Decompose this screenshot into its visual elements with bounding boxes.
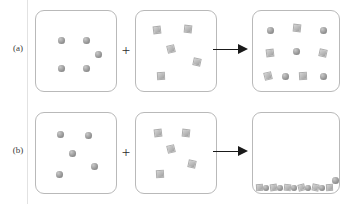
plus-operator-b: +: [118, 144, 134, 160]
panel-a-cubes-input: [135, 10, 217, 92]
sphere-particle: [263, 185, 269, 191]
sphere-particle: [319, 185, 325, 191]
sphere-particle: [83, 37, 90, 44]
sphere-particle: [57, 131, 64, 138]
sphere-particle: [305, 185, 311, 191]
figure-row-b: (b) +: [0, 102, 349, 204]
cube-particle: [326, 184, 333, 191]
sphere-particle: [277, 185, 283, 191]
panel-b-cubes-input: [135, 112, 217, 194]
arrow-b: [213, 145, 249, 159]
sphere-particle: [85, 132, 92, 139]
cube-particle: [153, 26, 162, 35]
sphere-particle: [291, 185, 297, 191]
arrow-head: [238, 146, 248, 156]
cube-particle: [182, 129, 191, 138]
figure-canvas: (a) + (b) +: [0, 0, 349, 204]
sphere-particle: [320, 73, 327, 80]
panel-b-settled-output: [252, 112, 340, 194]
cube-particle: [157, 72, 165, 80]
cube-particle: [156, 170, 164, 178]
cube-particle: [299, 72, 307, 80]
cube-particle: [166, 144, 176, 154]
sphere-particle: [69, 150, 76, 157]
settled-pile: [254, 180, 340, 192]
sphere-particle: [83, 65, 90, 72]
sphere-particle: [56, 171, 63, 178]
sphere-particle: [293, 48, 300, 55]
cube-particle: [187, 159, 196, 168]
plus-operator-a: +: [118, 42, 134, 58]
cube-particle: [263, 71, 273, 81]
cube-particle: [166, 44, 176, 54]
row-label-a: (a): [8, 43, 28, 53]
sphere-particle: [267, 27, 274, 34]
row-label-b: (b): [8, 145, 28, 155]
panel-a-spheres-input: [35, 10, 117, 92]
panel-b-spheres-input: [35, 112, 117, 194]
sphere-particle: [58, 65, 65, 72]
cube-particle: [318, 48, 327, 57]
cube-particle: [293, 24, 302, 33]
cube-particle: [266, 49, 275, 58]
sphere-particle: [58, 37, 65, 44]
figure-row-a: (a) +: [0, 0, 349, 102]
sphere-particle: [320, 27, 327, 34]
cube-particle: [154, 129, 163, 138]
panel-a-mixed-output: [252, 10, 340, 92]
sphere-particle: [282, 73, 289, 80]
sphere-particle: [95, 51, 102, 58]
arrow-a: [213, 43, 249, 57]
cube-particle: [192, 57, 201, 66]
sphere-particle: [332, 177, 339, 184]
cube-particle: [184, 25, 193, 34]
arrow-head: [238, 44, 248, 54]
arrow-shaft: [213, 49, 240, 50]
arrow-shaft: [213, 151, 240, 152]
sphere-particle: [91, 163, 98, 170]
